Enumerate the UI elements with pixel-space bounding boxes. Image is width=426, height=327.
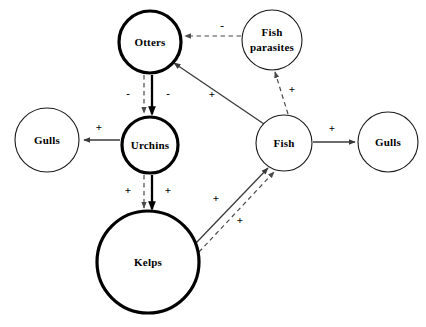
edge-sign-fish-gulls: + (329, 122, 335, 134)
edge-sign-urchins-gulls: + (96, 121, 102, 133)
node-otters-label: Otters (134, 36, 166, 48)
node-gulls-left[interactable]: Gulls (15, 108, 79, 172)
edge-parasites-to-otters: - (185, 19, 241, 36)
node-fish-parasites-label-line2: parasites (250, 41, 294, 53)
node-kelps[interactable]: Kelps (97, 211, 199, 313)
node-kelps-label: Kelps (134, 256, 162, 268)
edge-fish-to-gulls-right: + (313, 122, 355, 142)
edge-sign-otters-urchins-solid: - (166, 87, 170, 99)
node-urchins[interactable]: Urchins (122, 117, 178, 173)
edge-urchins-to-kelps-dashed: + (125, 175, 144, 208)
edge-kelps-to-fish-dashed: + (199, 172, 274, 252)
edge-fish-to-parasites: + (275, 72, 295, 114)
edge-sign-kelps-fish-solid: + (213, 192, 219, 204)
edge-kelps-to-fish-solid: + (196, 168, 268, 243)
food-web-diagram: - + + - - (0, 0, 426, 327)
edge-urchins-to-gulls-left: + (84, 121, 120, 140)
edge-otters-to-urchins-solid: - (152, 75, 170, 114)
edge-sign-otters-urchins-dashed: - (126, 87, 130, 99)
node-gulls-right[interactable]: Gulls (358, 112, 418, 172)
node-fish[interactable]: Fish (256, 115, 312, 171)
edge-sign-parasites-otters: - (220, 19, 224, 31)
edge-urchins-to-kelps-solid: + (152, 175, 171, 209)
edge-line (199, 172, 274, 252)
edge-sign-kelps-fish-dashed: + (237, 214, 243, 226)
edge-line (275, 72, 288, 114)
node-otters[interactable]: Otters (119, 11, 181, 73)
edge-otters-to-urchins-dashed: - (126, 75, 144, 113)
edge-line (196, 168, 268, 243)
edge-sign-urchins-kelps-solid: + (165, 184, 171, 196)
edge-line (174, 63, 264, 124)
edge-fish-to-otters: + (174, 63, 264, 124)
node-fish-parasites-label-line1: Fish (262, 26, 283, 38)
node-fish-parasites[interactable]: Fish parasites (242, 10, 302, 70)
edge-sign-fish-parasites: + (289, 83, 295, 95)
network-canvas: - + + - - (0, 0, 426, 327)
node-gulls-left-label: Gulls (34, 134, 61, 146)
node-fish-label: Fish (274, 137, 295, 149)
edge-sign-urchins-kelps-dashed: + (125, 184, 131, 196)
node-layer: Otters Fish parasites Gulls Urchins (15, 10, 418, 313)
node-urchins-label: Urchins (131, 139, 170, 151)
edge-sign-fish-otters: + (209, 88, 215, 100)
node-gulls-right-label: Gulls (375, 136, 402, 148)
